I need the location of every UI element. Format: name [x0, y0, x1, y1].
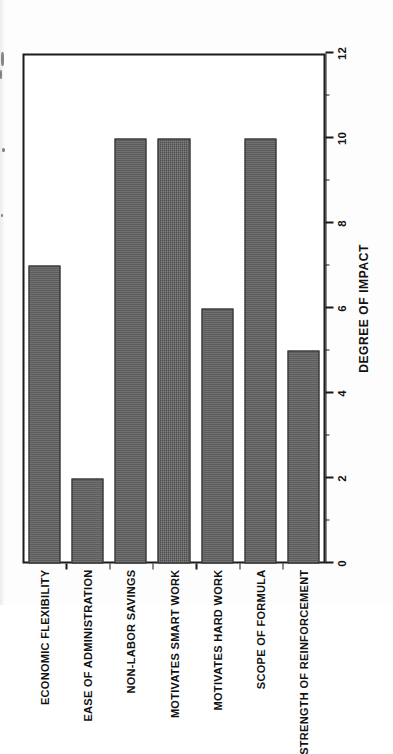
axis-tick-label-2: 2 [335, 475, 347, 482]
bar-scope-of-formula [244, 138, 276, 563]
axis-tick-minor [325, 179, 329, 181]
axis-tick-label-10: 10 [335, 131, 347, 144]
axis-tick-label-4: 4 [335, 390, 347, 397]
axis-tick-major [325, 562, 333, 564]
bar-ease-of-administration [71, 478, 103, 563]
category-tick [282, 563, 284, 569]
bar-strength-of-reinforcement [287, 351, 319, 564]
bars-layer [22, 53, 325, 563]
axis-tick-major [325, 392, 333, 394]
axis-tick-minor [325, 434, 329, 436]
bar-motivates-hard-work [201, 308, 233, 563]
axis-tick-minor [325, 519, 329, 521]
category-label-ease-of-administration: EASE OF ADMINISTRATION [81, 563, 93, 721]
category-label-motivates-hard-work: MOTIVATES HARD WORK [211, 563, 223, 710]
axis-tick-major [325, 307, 333, 309]
axis-tick-label-8: 8 [335, 220, 347, 227]
category-tick [152, 563, 154, 569]
axis-tick-minor [325, 94, 329, 96]
category-tick [65, 563, 67, 569]
category-tick [239, 563, 241, 569]
category-label-economic-flexibility: ECONOMIC FLEXIBILITY [38, 563, 50, 705]
category-label-motivates-smart-work: MOTIVATES SMART WORK [168, 563, 180, 718]
bar-economic-flexibility [28, 266, 60, 564]
category-label-strength-of-reinforcement: STRENGTH OF REINFORCEMENT [297, 563, 309, 754]
axis-tick-major [325, 52, 333, 54]
axis-tick-minor [325, 264, 329, 266]
axis-tick-major [325, 137, 333, 139]
category-label-non-labor-savings: NON-LABOR SAVINGS [124, 563, 136, 693]
axis-tick-label-0: 0 [335, 560, 347, 567]
axis-tick-label-6: 6 [335, 305, 347, 312]
bar-motivates-smart-work [157, 138, 189, 563]
axis-tick-label-12: 12 [335, 46, 347, 59]
bar-non-labor-savings [114, 138, 146, 563]
category-label-scope-of-formula: SCOPE OF FORMULA [254, 563, 266, 689]
axis-tick-major [325, 222, 333, 224]
category-tick [109, 563, 111, 569]
axis-tick-minor [325, 349, 329, 351]
axis-tick-major [325, 477, 333, 479]
value-axis-title: DEGREE OF IMPACT [356, 53, 370, 563]
category-tick [195, 563, 197, 569]
